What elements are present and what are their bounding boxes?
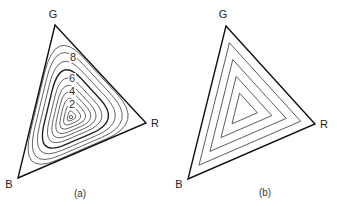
nested-triangle — [221, 76, 272, 137]
contour-value-label: 4 — [69, 85, 75, 97]
vertex-label-b: B — [175, 178, 182, 190]
vertex-label-r: R — [320, 118, 328, 130]
contour-value-label: 8 — [70, 51, 76, 63]
vertex-label-b: B — [5, 178, 12, 190]
contour-lines — [28, 45, 128, 164]
figure: 2468 G R B (a) G R B (b) — [0, 0, 337, 206]
vertex-label-r: R — [151, 117, 159, 129]
triangle-outline — [188, 26, 315, 179]
nested-triangle — [232, 93, 257, 124]
vertex-label-g: G — [219, 8, 228, 20]
vertex-label-g: G — [49, 8, 58, 20]
caption-a: (a) — [74, 188, 86, 199]
caption-b: (b) — [259, 187, 271, 198]
contour-line — [67, 111, 76, 121]
contour-labels: 2468 — [68, 51, 77, 110]
nested-triangles — [199, 43, 301, 165]
center-marker-icon — [69, 115, 72, 118]
panel-b-nested-triangles: G R B (b) — [175, 8, 328, 198]
contour-value-label: 6 — [69, 72, 75, 84]
panel-a-contour-triangle: 2468 G R B (a) — [5, 8, 159, 199]
contour-value-label: 2 — [69, 98, 75, 110]
